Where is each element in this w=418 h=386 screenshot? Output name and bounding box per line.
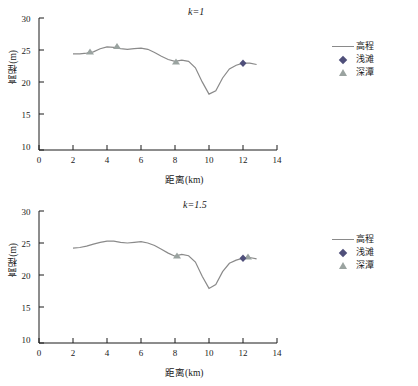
legend-triangle-icon (330, 259, 356, 272)
legend-item-shoal: 浅滩 (330, 246, 374, 259)
legend-item-elevation: 高程 (330, 233, 374, 246)
legend-label: 浅滩 (356, 53, 374, 66)
chart-panel-1: k=1 高程(m) 距离(km) 30 25 20 15 10 0 2 4 6 … (0, 0, 418, 193)
legend-label: 高程 (356, 233, 374, 246)
legend-label: 深潭 (356, 66, 374, 79)
series-line-elevation-1 (73, 47, 257, 94)
chart-panel-2: k=1.5 高程(m) 距离(km) 30 25 20 15 10 0 2 4 … (0, 193, 418, 386)
legend-label: 浅滩 (356, 246, 374, 259)
legend-line-icon (330, 233, 356, 246)
legend-label: 深潭 (356, 259, 374, 272)
plot-area-1 (0, 0, 320, 175)
marker-diamond (240, 60, 247, 67)
legend-diamond-icon (330, 246, 356, 259)
marker-triangle (113, 43, 121, 49)
plot-area-2 (0, 193, 320, 368)
legend-item-shoal: 浅滩 (330, 53, 374, 66)
legend-1: 高程 浅滩 深潭 (330, 40, 374, 79)
legend-item-pool: 深潭 (330, 259, 374, 272)
marker-diamond (240, 255, 247, 262)
legend-item-pool: 深潭 (330, 66, 374, 79)
legend-triangle-icon (330, 66, 356, 79)
legend-line-icon (330, 40, 356, 53)
legend-diamond-icon (330, 53, 356, 66)
series-line-elevation-2 (73, 241, 257, 288)
figure-root: k=1 高程(m) 距离(km) 30 25 20 15 10 0 2 4 6 … (0, 0, 418, 386)
legend-2: 高程 浅滩 深潭 (330, 233, 374, 272)
legend-item-elevation: 高程 (330, 40, 374, 53)
legend-label: 高程 (356, 40, 374, 53)
